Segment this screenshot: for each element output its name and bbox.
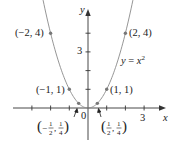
origin-label: 0 — [81, 110, 86, 121]
point-label-neg1-1: (−1, 1) — [36, 84, 65, 96]
svg-text:1: 1 — [117, 120, 121, 128]
svg-text:,: , — [112, 123, 114, 133]
leader-arrows — [74, 109, 101, 118]
parabola-graph: y x 0 3 3 (−2, 4) (2, 4) (−1, 1) (1, 1) … — [0, 0, 178, 156]
point-label-neg2-4: (−2, 4) — [15, 27, 44, 39]
point-marker — [49, 32, 52, 35]
y-axis-label: y — [79, 4, 85, 15]
svg-text:1: 1 — [107, 120, 111, 128]
x-tick-label-3: 3 — [140, 112, 145, 123]
point-marker — [124, 32, 127, 35]
leader-right-arrow-icon — [98, 109, 101, 113]
svg-text:(: ( — [101, 118, 106, 135]
point-label-half-quarter: ( 1 2 , 1 4 ) — [101, 118, 127, 137]
x-axis-label: x — [162, 112, 168, 123]
point-label-1-1: (1, 1) — [110, 84, 133, 96]
point-marker — [68, 88, 71, 91]
svg-text:−: − — [42, 123, 47, 133]
svg-text:2: 2 — [49, 129, 53, 137]
point-label-2-4: (2, 4) — [129, 27, 152, 39]
point-marker — [105, 88, 108, 91]
x-axis-arrow-icon — [159, 105, 166, 110]
y-axis-arrow-icon — [85, 9, 90, 16]
point-label-neg-half-quarter: ( − 1 2 , 1 4 ) — [37, 118, 69, 137]
function-label: y = x2 — [120, 54, 146, 66]
point-marker — [77, 102, 80, 105]
svg-text:1: 1 — [49, 120, 53, 128]
svg-text:): ) — [122, 118, 127, 135]
svg-text:2: 2 — [107, 129, 111, 137]
svg-text:1: 1 — [59, 120, 63, 128]
svg-text:4: 4 — [59, 129, 63, 137]
point-marker — [96, 102, 99, 105]
svg-text:4: 4 — [117, 129, 121, 137]
svg-text:,: , — [54, 123, 56, 133]
y-tick-label-3: 3 — [77, 45, 82, 56]
svg-text:): ) — [64, 118, 69, 135]
leader-left-arrow-icon — [75, 109, 78, 113]
